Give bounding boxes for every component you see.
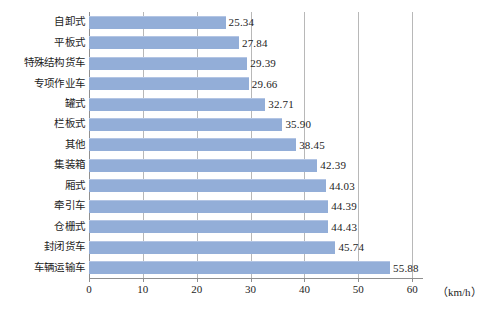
- bar[interactable]: [89, 241, 335, 254]
- bar-row[interactable]: 栏板式35.90: [0, 114, 496, 134]
- bar-value-label: 44.03: [329, 180, 355, 192]
- bar-row[interactable]: 仓栅式44.43: [0, 217, 496, 237]
- bar[interactable]: [89, 159, 317, 172]
- x-axis-tickmark: [412, 278, 413, 282]
- bar[interactable]: [89, 118, 282, 131]
- bar-value-label: 32.71: [268, 98, 294, 110]
- bar-track: 44.43: [89, 217, 496, 237]
- bar-track: 38.45: [89, 135, 496, 155]
- bar-row[interactable]: 其他38.45: [0, 135, 496, 155]
- category-label: 厢式: [0, 180, 85, 192]
- category-label: 集装箱: [0, 159, 85, 171]
- bar-value-label: 45.74: [338, 241, 364, 253]
- bar-row[interactable]: 封闭货车45.74: [0, 237, 496, 257]
- bar-track: 44.39: [89, 196, 496, 216]
- bar-track: 32.71: [89, 94, 496, 114]
- bar-track: 55.88: [89, 257, 496, 277]
- bar-value-label: 35.90: [285, 118, 311, 130]
- bar-row[interactable]: 特殊结构货车29.39: [0, 53, 496, 73]
- x-axis-tickmark: [251, 278, 252, 282]
- category-label: 牵引车: [0, 200, 85, 212]
- x-axis-tick-label: 40: [299, 283, 310, 295]
- x-axis-tick-label: 0: [86, 283, 92, 295]
- category-label: 仓栅式: [0, 221, 85, 233]
- x-axis-tickmark: [197, 278, 198, 282]
- bar-value-label: 44.43: [331, 221, 357, 233]
- bar[interactable]: [89, 77, 249, 90]
- bar-row[interactable]: 厢式44.03: [0, 176, 496, 196]
- x-axis-tick-label: 20: [191, 283, 202, 295]
- x-axis-tick-label: 10: [137, 283, 148, 295]
- x-axis-tick-label: 50: [353, 283, 364, 295]
- category-label: 栏板式: [0, 118, 85, 130]
- bar-row[interactable]: 平板式27.84: [0, 32, 496, 52]
- bar-row[interactable]: 罐式32.71: [0, 94, 496, 114]
- x-axis-tickmark: [358, 278, 359, 282]
- bar[interactable]: [89, 179, 326, 192]
- x-axis-tick-label: 30: [245, 283, 256, 295]
- x-axis-unit-label: （km/h）: [437, 283, 482, 299]
- bar[interactable]: [89, 16, 226, 29]
- bar-value-label: 38.45: [299, 139, 325, 151]
- bar-row[interactable]: 牵引车44.39: [0, 196, 496, 216]
- bar-value-label: 42.39: [320, 159, 346, 171]
- bar[interactable]: [89, 98, 265, 111]
- bar[interactable]: [89, 57, 247, 70]
- bar-value-label: 29.66: [252, 78, 278, 90]
- bar-value-label: 27.84: [242, 37, 268, 49]
- category-label: 自卸式: [0, 16, 85, 28]
- bar-track: 25.34: [89, 12, 496, 32]
- category-label: 专项作业车: [0, 78, 85, 90]
- bar[interactable]: [89, 220, 328, 233]
- x-axis-tick-labels: 0102030405060: [0, 283, 496, 303]
- bar[interactable]: [89, 261, 390, 274]
- bar-row[interactable]: 集装箱42.39: [0, 155, 496, 175]
- bar-value-label: 25.34: [229, 16, 255, 28]
- category-label: 其他: [0, 139, 85, 151]
- bar-value-label: 29.39: [250, 57, 276, 69]
- bar-track: 27.84: [89, 32, 496, 52]
- bar-chart: 自卸式25.34平板式27.84特殊结构货车29.39专项作业车29.66罐式3…: [0, 0, 496, 311]
- bar-row[interactable]: 自卸式25.34: [0, 12, 496, 32]
- bar-row[interactable]: 车辆运输车55.88: [0, 257, 496, 277]
- category-label: 罐式: [0, 98, 85, 110]
- x-axis-tick-label: 60: [407, 283, 418, 295]
- category-label: 封闭货车: [0, 241, 85, 253]
- bar-track: 35.90: [89, 114, 496, 134]
- x-axis-line: [89, 278, 423, 279]
- bar-row[interactable]: 专项作业车29.66: [0, 73, 496, 93]
- category-label: 特殊结构货车: [0, 57, 85, 69]
- bar[interactable]: [89, 36, 239, 49]
- bar[interactable]: [89, 138, 296, 151]
- bar-rows: 自卸式25.34平板式27.84特殊结构货车29.39专项作业车29.66罐式3…: [0, 12, 496, 278]
- bar-value-label: 44.39: [331, 200, 357, 212]
- x-axis-tickmark: [304, 278, 305, 282]
- bar-track: 29.66: [89, 73, 496, 93]
- x-axis-tickmark: [89, 278, 90, 282]
- bar-track: 44.03: [89, 176, 496, 196]
- category-label: 平板式: [0, 37, 85, 49]
- bar-track: 29.39: [89, 53, 496, 73]
- category-label: 车辆运输车: [0, 262, 85, 274]
- bar-track: 42.39: [89, 155, 496, 175]
- x-axis-tickmark: [143, 278, 144, 282]
- bar[interactable]: [89, 200, 328, 213]
- bar-track: 45.74: [89, 237, 496, 257]
- bar-value-label: 55.88: [393, 262, 419, 274]
